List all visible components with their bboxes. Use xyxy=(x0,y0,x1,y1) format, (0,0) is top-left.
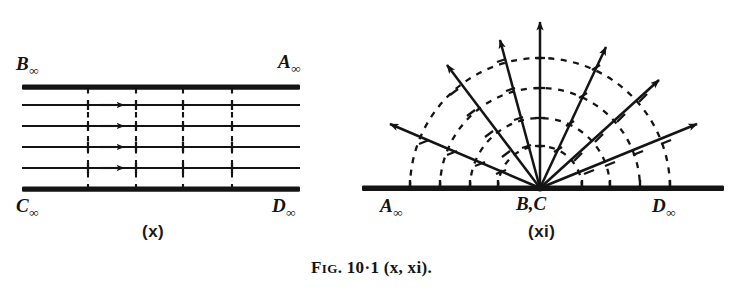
plane-wave-diagram xyxy=(0,0,350,260)
label-c-infinity: C∞ xyxy=(16,196,38,219)
label-d-infinity: D∞ xyxy=(272,196,296,219)
panel-cylindrical-waves: A∞ B,C D∞ (xi) xyxy=(350,0,743,260)
caption-prefix: F xyxy=(311,258,322,277)
source-point-bc xyxy=(536,184,543,191)
boundary-bottom xyxy=(22,187,300,192)
plane-wavefronts xyxy=(88,88,232,189)
cylindrical-rays xyxy=(390,22,697,188)
caption-rest: . 10·1 (x, xi). xyxy=(338,258,432,277)
panel-plane-waves: B∞ A∞ C∞ D∞ (x) xyxy=(0,0,350,260)
boundary-top xyxy=(22,85,300,90)
label-d-infinity-right-panel: D∞ xyxy=(652,196,676,219)
panel-tag-x: (x) xyxy=(142,222,164,242)
panel-tag-xi: (xi) xyxy=(528,222,556,242)
plane-wave-arrowheads xyxy=(100,105,124,168)
label-b-infinity: B∞ xyxy=(16,54,38,77)
label-bc-source: B,C xyxy=(516,194,546,213)
figure-10-1: B∞ A∞ C∞ D∞ (x) xyxy=(0,0,743,297)
caption-smallcaps: IG xyxy=(322,261,338,276)
figure-caption: FIG. 10·1 (x, xi). xyxy=(0,258,743,278)
wavefront-ray-ticks xyxy=(88,100,232,173)
cylindrical-wave-diagram xyxy=(350,0,743,260)
ray-arc-crossings xyxy=(419,58,671,174)
plane-wave-rays xyxy=(22,105,300,168)
label-a-infinity: A∞ xyxy=(278,52,300,75)
label-a-infinity-right-panel: A∞ xyxy=(380,196,402,219)
